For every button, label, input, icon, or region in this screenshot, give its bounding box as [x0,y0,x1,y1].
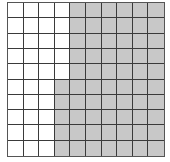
unshaded-cell [55,18,71,33]
shaded-cell [102,3,118,18]
shaded-cell [86,110,102,125]
shaded-cell [70,34,86,49]
shaded-cell [86,95,102,110]
shaded-cell [70,3,86,18]
unshaded-cell [39,141,55,156]
shaded-cell [102,110,118,125]
shaded-cell [70,18,86,33]
shaded-cell [133,95,149,110]
shaded-cell [117,110,133,125]
unshaded-cell [24,3,40,18]
shaded-cell [117,125,133,140]
shaded-cell [148,34,164,49]
unshaded-cell [24,95,40,110]
unshaded-cell [39,80,55,95]
unshaded-cell [8,110,24,125]
unshaded-cell [39,125,55,140]
unshaded-cell [39,49,55,64]
shaded-cell [133,18,149,33]
unshaded-cell [24,18,40,33]
shaded-cell [102,64,118,79]
shaded-cell [148,125,164,140]
unshaded-cell [8,125,24,140]
shaded-cell [133,125,149,140]
shaded-cell [117,64,133,79]
unshaded-cell [8,95,24,110]
unshaded-cell [39,95,55,110]
shaded-cell [133,141,149,156]
shaded-cell [148,110,164,125]
shaded-cell [102,95,118,110]
shaded-cell [86,125,102,140]
shaded-cell [70,95,86,110]
shaded-cell [133,64,149,79]
shaded-cell [86,141,102,156]
unshaded-cell [8,141,24,156]
shaded-cell [148,3,164,18]
shaded-cell [117,141,133,156]
unshaded-cell [24,49,40,64]
shaded-cell [55,80,71,95]
shaded-cell [70,49,86,64]
shaded-cell [133,34,149,49]
shaded-cell [86,49,102,64]
shaded-cell [148,18,164,33]
shaded-cell [86,34,102,49]
shaded-cell [133,49,149,64]
unshaded-cell [8,3,24,18]
shaded-cell [55,125,71,140]
unshaded-cell [55,34,71,49]
shaded-cell [70,110,86,125]
shaded-cell [117,49,133,64]
shaded-cell [86,64,102,79]
unshaded-cell [24,110,40,125]
unshaded-cell [24,64,40,79]
shaded-cell [55,95,71,110]
unshaded-cell [8,64,24,79]
unshaded-cell [39,18,55,33]
unshaded-cell [39,3,55,18]
unshaded-cell [24,80,40,95]
unshaded-cell [55,64,71,79]
shaded-cell [117,3,133,18]
shaded-cell [148,64,164,79]
shaded-cell [55,141,71,156]
unshaded-cell [39,110,55,125]
shaded-cell [102,125,118,140]
shaded-cell [55,110,71,125]
shaded-cell [70,125,86,140]
shaded-cell [70,141,86,156]
shaded-cell [102,49,118,64]
shaded-cell [102,141,118,156]
shaded-cell [86,3,102,18]
shaded-cell [117,34,133,49]
unshaded-cell [24,125,40,140]
shaded-cell [148,141,164,156]
unshaded-cell [8,34,24,49]
unshaded-cell [8,80,24,95]
unshaded-cell [39,34,55,49]
shaded-cell [148,80,164,95]
shaded-cell [117,95,133,110]
shaded-cell [70,64,86,79]
shaded-cell [102,18,118,33]
shaded-cell [117,80,133,95]
unshaded-cell [24,34,40,49]
shaded-cell [86,80,102,95]
shaded-cell [133,3,149,18]
unshaded-cell [39,64,55,79]
shaded-cell [102,34,118,49]
unshaded-cell [55,49,71,64]
unshaded-cell [8,18,24,33]
shaded-cell [133,80,149,95]
shaded-cell [70,80,86,95]
unshaded-cell [24,141,40,156]
shaded-cell [117,18,133,33]
shaded-cell [148,95,164,110]
unshaded-cell [8,49,24,64]
shaded-cell [148,49,164,64]
shaded-cell [133,110,149,125]
hundred-grid [7,2,165,157]
unshaded-cell [55,3,71,18]
shaded-cell [102,80,118,95]
